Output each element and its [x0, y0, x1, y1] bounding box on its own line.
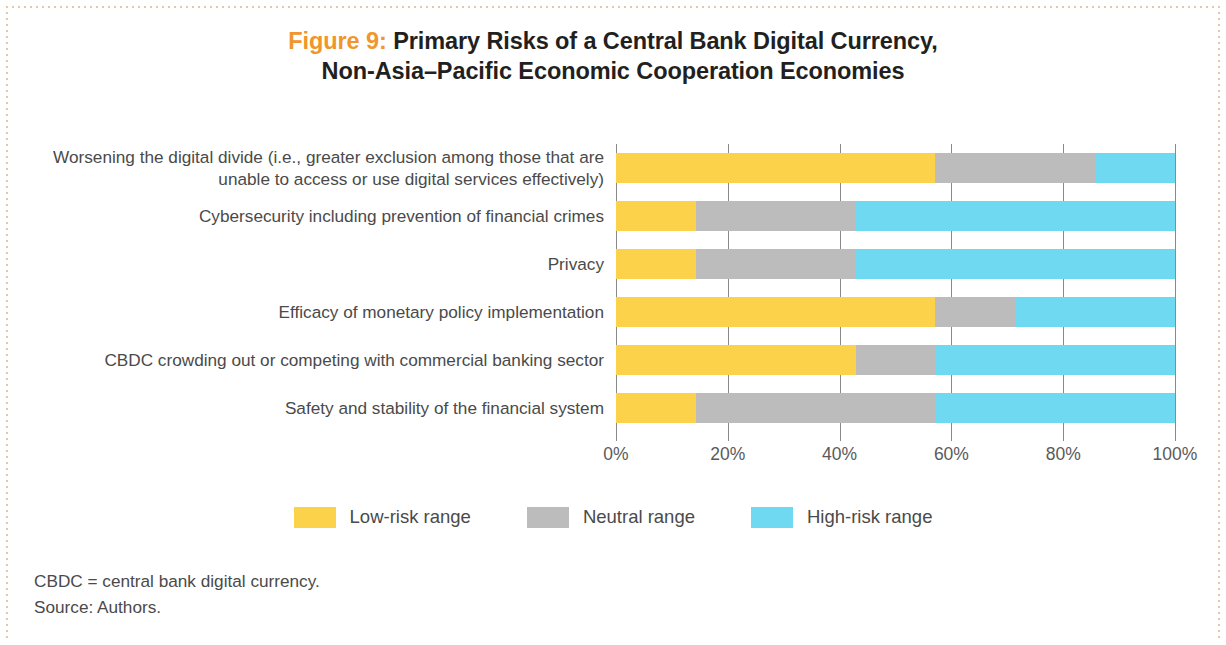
- legend-label: Low-risk range: [350, 506, 471, 528]
- bar-segment-high-risk-range: [935, 393, 1175, 423]
- category-label: Safety and stability of the financial sy…: [12, 397, 604, 419]
- bar-segment-neutral-range: [696, 201, 856, 231]
- bar-segment-high-risk-range: [856, 201, 1175, 231]
- title-line-2: Non-Asia–Pacific Economic Cooperation Ec…: [0, 56, 1226, 86]
- title-line-1-text: Primary Risks of a Central Bank Digital …: [387, 28, 938, 54]
- axis-tick: [1063, 432, 1064, 441]
- bar-segment-neutral-range: [856, 345, 936, 375]
- category-label: Privacy: [12, 253, 604, 275]
- bar-segment-low-risk-range: [616, 249, 696, 279]
- value-axis: 0%20%40%60%80%100%: [616, 432, 1175, 433]
- bar-segment-high-risk-range: [856, 249, 1175, 279]
- bar-segment-high-risk-range: [1015, 297, 1175, 327]
- axis-tick-label: 80%: [1046, 444, 1081, 465]
- legend-item[interactable]: High-risk range: [751, 506, 932, 528]
- bar-row: [616, 297, 1175, 327]
- legend-item[interactable]: Low-risk range: [294, 506, 471, 528]
- bar-row: [616, 201, 1175, 231]
- bar-segment-low-risk-range: [616, 345, 856, 375]
- axis-tick: [728, 432, 729, 441]
- axis-tick: [951, 432, 952, 441]
- gridline: [616, 144, 617, 432]
- chart-plot-wrapper: Worsening the digital divide (i.e., grea…: [0, 132, 1226, 442]
- legend-label: Neutral range: [583, 506, 695, 528]
- bar-segment-low-risk-range: [616, 153, 935, 183]
- bar-segment-low-risk-range: [616, 201, 696, 231]
- gridline: [840, 144, 841, 432]
- axis-tick: [616, 432, 617, 441]
- bar-row: [616, 393, 1175, 423]
- bar-segment-neutral-range: [935, 153, 1095, 183]
- legend-label: High-risk range: [807, 506, 932, 528]
- axis-tick: [840, 432, 841, 441]
- bar-row: [616, 153, 1175, 183]
- source-note: Source: Authors.: [34, 594, 320, 620]
- gridline: [728, 144, 729, 432]
- bar-segment-low-risk-range: [616, 393, 696, 423]
- abbreviation-note: CBDC = central bank digital currency.: [34, 568, 320, 594]
- gridline: [951, 144, 952, 432]
- category-label: Worsening the digital divide (i.e., grea…: [12, 146, 604, 190]
- axis-tick-label: 100%: [1153, 444, 1198, 465]
- bar-row: [616, 345, 1175, 375]
- figure-notes: CBDC = central bank digital currency. So…: [34, 568, 320, 620]
- legend-item[interactable]: Neutral range: [527, 506, 695, 528]
- legend-swatch-icon: [294, 507, 336, 528]
- bar-segment-neutral-range: [696, 393, 936, 423]
- chart-legend: Low-risk rangeNeutral rangeHigh-risk ran…: [0, 506, 1226, 528]
- figure-container: Figure 9: Primary Risks of a Central Ban…: [0, 0, 1226, 645]
- figure-number-label: Figure 9:: [288, 28, 386, 54]
- bar-segment-neutral-range: [696, 249, 856, 279]
- axis-tick-label: 40%: [822, 444, 857, 465]
- category-label: CBDC crowding out or competing with comm…: [12, 349, 604, 371]
- plot-area: [616, 144, 1175, 432]
- gridline: [1063, 144, 1064, 432]
- bar-segment-neutral-range: [935, 297, 1015, 327]
- title-line-1: Figure 9: Primary Risks of a Central Ban…: [0, 26, 1226, 56]
- axis-tick: [1175, 432, 1176, 441]
- bar-segment-high-risk-range: [1095, 153, 1175, 183]
- bar-segment-high-risk-range: [935, 345, 1175, 375]
- legend-swatch-icon: [527, 507, 569, 528]
- legend-swatch-icon: [751, 507, 793, 528]
- axis-tick-label: 60%: [934, 444, 969, 465]
- page-border-top: [6, 6, 1220, 8]
- gridline: [1175, 144, 1176, 432]
- figure-title: Figure 9: Primary Risks of a Central Ban…: [0, 26, 1226, 86]
- category-axis-labels: Worsening the digital divide (i.e., grea…: [12, 132, 604, 442]
- axis-tick-label: 20%: [710, 444, 745, 465]
- category-label: Efficacy of monetary policy implementati…: [12, 301, 604, 323]
- category-label: Cybersecurity including prevention of fi…: [12, 205, 604, 227]
- bar-row: [616, 249, 1175, 279]
- bar-segment-low-risk-range: [616, 297, 935, 327]
- axis-tick-label: 0%: [603, 444, 628, 465]
